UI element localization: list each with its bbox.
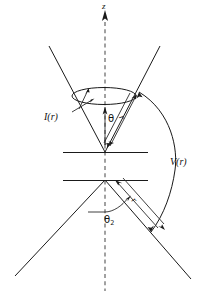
intensity-label: I(r): [44, 112, 58, 122]
upper-cone-right-ray: [105, 46, 160, 152]
diagram-canvas: z I(r) V(r) θ θ2 r r: [0, 0, 206, 291]
theta2-label: θ2: [104, 215, 114, 225]
lower-radius-arrow-bottom: [158, 224, 165, 230]
theta2-angle-indicator: [88, 196, 131, 213]
z-axis-arrowhead: [102, 10, 108, 21]
theta2-arc: [105, 198, 128, 212]
theta-label: θ: [108, 114, 114, 124]
upper-cone-left-ray: [49, 46, 105, 152]
z-axis: [102, 10, 108, 291]
potential-label: V(r): [170, 157, 187, 167]
lower-radius-line-a: [117, 182, 158, 228]
lower-cone-right-ray: [105, 180, 191, 279]
cone-mouth-ellipse: [72, 88, 136, 105]
diagram-svg: [0, 0, 206, 291]
z-axis-label: z: [102, 2, 106, 11]
theta2-subscript: 2: [110, 219, 114, 227]
lower-cone-left-ray: [15, 180, 105, 276]
potential-arc-top-arrowhead: [136, 92, 142, 99]
intensity-tick-line: [79, 90, 88, 109]
